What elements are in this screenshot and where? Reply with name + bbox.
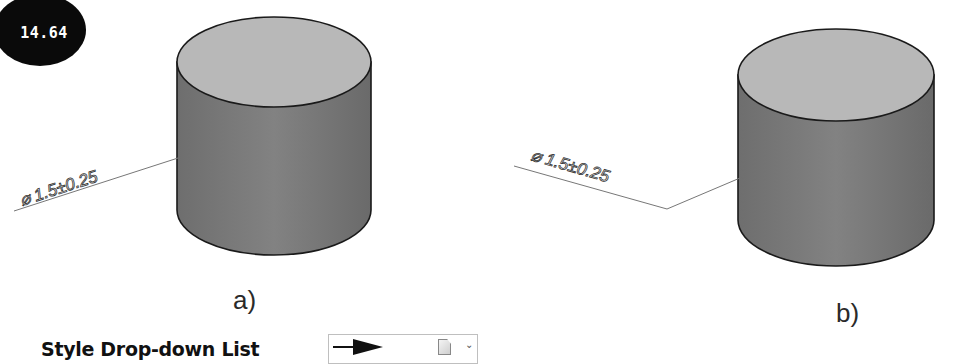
dimension-text-b: ⌀ 1.5±0.25 xyxy=(529,146,612,187)
caption-a: a) xyxy=(233,285,256,316)
filled-arrow-icon xyxy=(353,339,383,355)
cylinder-b xyxy=(738,29,934,266)
style-dropdown-label: Style Drop-down List xyxy=(41,338,259,360)
dimension-leader-b: ⌀ 1.5±0.25 xyxy=(514,146,740,209)
dimension-text-a: ⌀ 1.5±0.25 xyxy=(17,167,100,210)
dimension-leader-a: ⌀ 1.5±0.25 xyxy=(14,158,178,211)
style-dropdown[interactable]: ⌄ xyxy=(328,334,478,364)
document-icon xyxy=(438,339,451,355)
caption-b: b) xyxy=(836,298,859,329)
arrow-style-line-icon xyxy=(333,346,355,348)
cylinder-a xyxy=(177,17,371,255)
chevron-down-icon[interactable]: ⌄ xyxy=(465,339,473,350)
